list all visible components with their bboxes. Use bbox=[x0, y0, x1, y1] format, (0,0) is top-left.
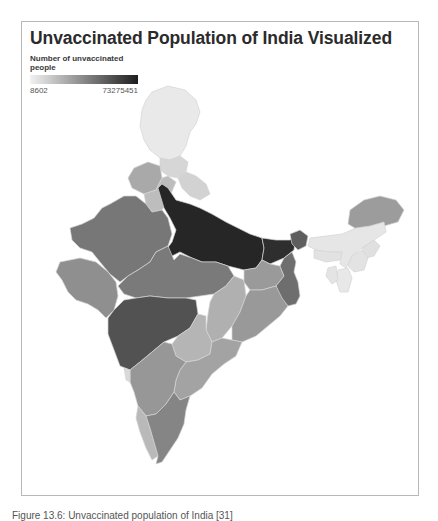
region-mizoram: Mizoram bbox=[336, 268, 352, 292]
region-tripura: Tripura bbox=[326, 266, 338, 284]
region-meghalaya: Meghalaya bbox=[314, 250, 342, 262]
region-jammu-and-kashmir: Jammu and Kashmir bbox=[140, 86, 200, 160]
region-uttar-pradesh: Uttar Pradesh bbox=[158, 184, 264, 270]
india-choropleth-map: Jammu and Kashmir Himachal Pradesh Punja… bbox=[0, 0, 438, 521]
figure-caption: Figure 13.6: Unvaccinated population of … bbox=[12, 510, 233, 521]
region-goa: Goa bbox=[124, 368, 130, 382]
region-uttarakhand: Uttarakhand bbox=[178, 172, 210, 200]
